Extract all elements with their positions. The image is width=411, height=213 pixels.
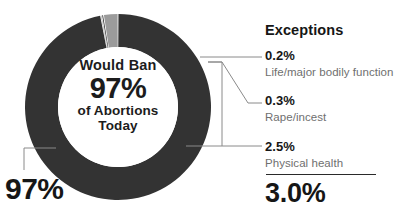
donut-center-label: Would Ban 97% of Abortions Today	[58, 57, 178, 133]
exceptions-legend: Exceptions 0.2% Life/major bodily functi…	[265, 22, 411, 182]
exceptions-total-divider	[266, 174, 376, 175]
legend-row-physical-health[interactable]: 2.5% Physical health	[265, 140, 411, 170]
exceptions-total-value: 3.0%	[265, 178, 325, 209]
legend-description: Life/major bodily function	[265, 65, 411, 79]
leader-line-physical-health	[208, 62, 262, 146]
legend-value: 0.3%	[265, 94, 411, 109]
legend-value: 0.2%	[265, 49, 411, 64]
center-line-4: Today	[58, 118, 178, 133]
legend-title: Exceptions	[265, 22, 411, 38]
slice-physical-health[interactable]	[104, 14, 118, 48]
center-percent: 97%	[58, 72, 178, 104]
chart-container: Would Ban 97% of Abortions Today 97% Exc…	[0, 0, 411, 213]
legend-row-rape-incest[interactable]: 0.3% Rape/incest	[265, 94, 411, 124]
legend-value: 2.5%	[265, 140, 411, 155]
would-ban-callout-value: 97%	[5, 172, 64, 206]
legend-row-life-major[interactable]: 0.2% Life/major bodily function	[265, 49, 411, 79]
center-line-3: of Abortions	[58, 103, 178, 118]
legend-description: Physical health	[265, 156, 411, 170]
center-line-1: Would Ban	[58, 57, 178, 73]
leader-line-rape-incest	[208, 62, 262, 103]
legend-description: Rape/incest	[265, 110, 411, 124]
